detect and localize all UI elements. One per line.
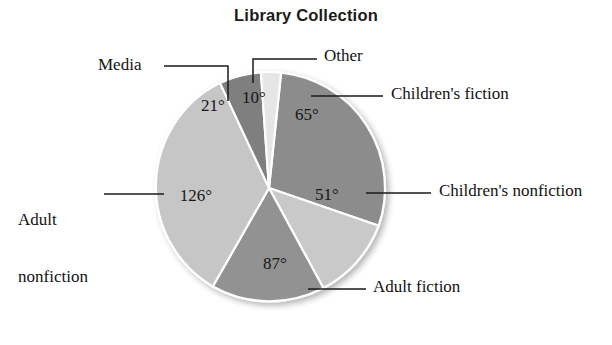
chart-canvas: Library Collection (0, 0, 612, 345)
callout-label-adult-fiction: Adult fiction (373, 278, 460, 296)
callout-label-adult-nonfiction: Adult nonfiction (18, 172, 88, 324)
slice-value-media: 21° (193, 96, 233, 116)
callout-label-other: Other (324, 47, 363, 65)
pie-chart-graphic (0, 0, 612, 345)
callout-label-adult-nonfiction-line1: Adult (18, 210, 88, 229)
callout-label-children-nonfiction: Children's nonfiction (439, 182, 582, 200)
callout-label-media: Media (98, 56, 141, 74)
slice-value-other: 10° (234, 88, 274, 108)
slice-value-children-fiction: 65° (285, 105, 329, 125)
slice-value-children-nonfiction: 51° (305, 185, 349, 205)
callout-label-children-fiction: Children's fiction (391, 85, 509, 103)
slice-value-adult-nonfiction: 126° (168, 186, 224, 206)
callout-label-adult-nonfiction-line2: nonfiction (18, 267, 88, 286)
slice-value-adult-fiction: 87° (253, 254, 297, 274)
